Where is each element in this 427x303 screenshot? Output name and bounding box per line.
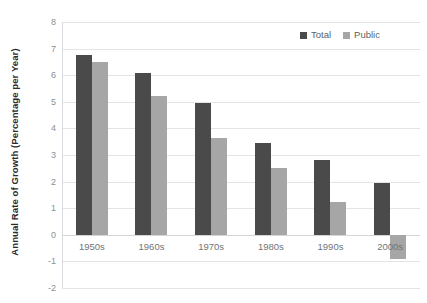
x-axis-labels: 1950s1960s1970s1980s1990s2000s [62,240,420,256]
legend-label-public: Public [354,30,380,40]
x-axis-label-1990s: 1990s [301,240,361,254]
y-tick-label: 1 [30,203,56,213]
legend-label-total: Total [311,30,331,40]
y-tick-label: 8 [30,17,56,27]
bar-chart: Annual Rate of Growth (Percentage per Ye… [0,0,427,303]
bar-total-1980s[interactable] [255,143,271,235]
x-axis-label-2000s: 2000s [360,240,420,254]
y-tick-label: 3 [30,150,56,160]
y-tick-label: 2 [30,177,56,187]
y-tick-label: -1 [30,256,56,266]
y-tick-label: 0 [30,230,56,240]
bar-public-1950s[interactable] [92,62,108,235]
bar-total-1960s[interactable] [135,73,151,235]
y-tick-label: 4 [30,123,56,133]
legend-swatch-total-icon [300,32,307,39]
bar-total-1950s[interactable] [76,55,92,235]
bar-public-1990s[interactable] [330,202,346,235]
x-axis-label-1960s: 1960s [122,240,182,254]
bar-public-1960s[interactable] [151,96,167,234]
y-tick-label: -2 [30,283,56,293]
x-axis-label-1970s: 1970s [181,240,241,254]
y-tick-label: 5 [30,97,56,107]
bar-total-1990s[interactable] [314,160,330,234]
x-axis-label-1950s: 1950s [62,240,122,254]
gridline--2 [62,288,420,289]
legend-item-total[interactable]: Total [300,30,331,40]
x-axis-label-1980s: 1980s [241,240,301,254]
bar-total-1970s[interactable] [195,103,211,235]
y-tick-label: 6 [30,70,56,80]
legend: TotalPublic [300,30,380,40]
y-tick-label: 7 [30,44,56,54]
legend-item-public[interactable]: Public [343,30,380,40]
y-axis-title-text: Annual Rate of Growth (Percentage per Ye… [9,48,21,255]
bar-public-1980s[interactable] [271,168,287,235]
bar-public-1970s[interactable] [211,138,227,235]
legend-swatch-public-icon [343,32,350,39]
bar-total-2000s[interactable] [374,183,390,235]
y-axis-ticks: 876543210-1-2 [26,22,56,288]
